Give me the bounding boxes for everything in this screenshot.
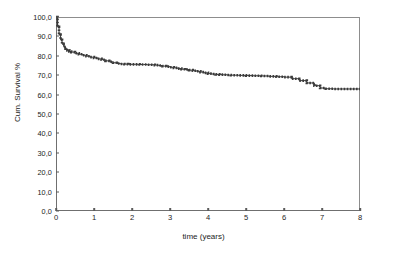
x-axis-tick-mark xyxy=(283,208,285,211)
y-axis-tick-label: 90,0 xyxy=(37,32,52,41)
y-axis-tick-label: 40,0 xyxy=(37,129,52,138)
x-axis-tick-label: 1 xyxy=(92,213,96,222)
plot-area xyxy=(56,17,360,211)
y-axis-tick-label: 50,0 xyxy=(37,110,52,119)
x-axis-tick-mark xyxy=(131,208,133,211)
y-axis-tick-mark xyxy=(56,36,59,37)
x-axis-tick-label: 8 xyxy=(358,213,362,222)
x-axis-tick-label: 5 xyxy=(244,213,248,222)
x-axis-tick-mark xyxy=(321,208,323,211)
y-axis-tick-mark xyxy=(56,75,59,76)
y-axis-tick-label: 70,0 xyxy=(37,71,52,80)
y-axis-tick-labels: 0,010,020,030,040,050,060,070,080,090,01… xyxy=(0,0,52,255)
censoring-marks xyxy=(56,17,360,89)
x-axis-title: time (years) xyxy=(0,232,407,241)
y-axis-tick-mark xyxy=(56,152,59,153)
x-axis-tick-mark xyxy=(359,208,361,211)
y-axis-tick-mark xyxy=(56,172,59,173)
x-axis-tick-label: 7 xyxy=(320,213,324,222)
y-axis-tick-label: 60,0 xyxy=(37,90,52,99)
x-axis-tick-label: 0 xyxy=(54,213,58,222)
y-axis-tick-label: 20,0 xyxy=(37,168,52,177)
x-axis-tick-mark xyxy=(245,208,247,211)
y-axis-tick-label: 30,0 xyxy=(37,148,52,157)
y-axis-tick-label: 10,0 xyxy=(37,187,52,196)
y-axis-tick-mark xyxy=(56,133,59,134)
y-axis-tick-mark xyxy=(56,17,59,18)
x-axis-tick-label: 6 xyxy=(282,213,286,222)
x-axis-tick-mark xyxy=(207,208,209,211)
y-axis-tick-label: 0,0 xyxy=(42,207,52,216)
x-axis-tick-mark xyxy=(169,208,171,211)
y-axis-tick-mark xyxy=(56,94,59,95)
y-axis-tick-label: 100,0 xyxy=(33,13,52,22)
survival-curve xyxy=(56,17,360,211)
x-axis-tick-mark xyxy=(93,208,95,211)
x-axis-tick-label: 2 xyxy=(130,213,134,222)
survival-chart: Cum. Survival % 0,010,020,030,040,050,06… xyxy=(0,0,407,255)
y-axis-tick-mark xyxy=(56,191,59,192)
x-axis-tick-mark xyxy=(55,208,57,211)
y-axis-tick-mark xyxy=(56,55,59,56)
y-axis-tick-mark xyxy=(56,114,59,115)
x-axis-tick-label: 4 xyxy=(206,213,210,222)
y-axis-tick-label: 80,0 xyxy=(37,51,52,60)
x-axis-tick-label: 3 xyxy=(168,213,172,222)
survival-curve-line xyxy=(56,17,360,89)
